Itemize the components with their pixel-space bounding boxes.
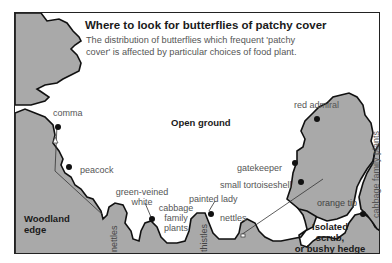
red-admiral-dot <box>314 116 320 122</box>
label-comma: comma <box>53 108 83 118</box>
label-cabbage-1: cabbage <box>150 203 202 213</box>
label-thistles: thistles <box>199 224 209 252</box>
label-small-tortoiseshell: small tortoiseshell <box>220 180 292 190</box>
label-open-ground: Open ground <box>171 118 231 128</box>
peacock-dot <box>66 164 72 170</box>
label-cabbage-3: plants <box>150 223 202 233</box>
diagram-title: Where to look for butterflies of patchy … <box>85 19 327 31</box>
label-orange-tip: orange tip <box>317 198 357 208</box>
label-nettles-left: nettles <box>109 225 119 252</box>
small-tortoiseshell-dot <box>298 179 304 185</box>
label-gatekeeper: gatekeeper <box>237 163 282 173</box>
label-scrub-2: scrub, <box>290 233 370 243</box>
label-woodland-edge-1: Woodland <box>24 214 70 224</box>
diagram-subtitle: The distribution of butterflies which fr… <box>86 35 316 58</box>
label-cabbage-family-plants-right: cabbage family plants <box>371 131 381 218</box>
gatekeeper-dot <box>292 160 298 166</box>
nettles-marker <box>241 234 245 237</box>
label-nettles-right: nettles <box>220 213 247 223</box>
label-cabbage-2: family <box>150 213 202 223</box>
label-red-admiral: red admiral <box>294 100 339 110</box>
label-peacock: peacock <box>80 165 114 175</box>
label-scrub-3: or bushy hedge <box>290 244 370 254</box>
woodland-top-patch <box>15 13 81 105</box>
label-woodland-edge-2: edge <box>24 225 46 235</box>
label-scrub-1: Isolated <box>290 222 370 232</box>
label-green-veined-white-1: green-veined <box>112 187 172 197</box>
painted-lady-dot <box>208 211 214 217</box>
orange-tip-dot <box>360 211 366 217</box>
comma-dot <box>55 124 61 130</box>
